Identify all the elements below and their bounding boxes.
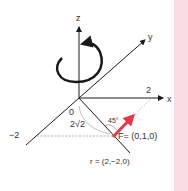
- origin-label: 0: [69, 108, 74, 117]
- x-axis-label: x: [167, 95, 172, 104]
- distance-label: 2√2: [70, 120, 85, 129]
- y-axis: [79, 40, 145, 98]
- y-axis-label: y: [148, 33, 153, 42]
- z-axis-label: z: [76, 14, 81, 23]
- position-label: r = (2,−2,0): [90, 158, 130, 166]
- neg-tick-label: −2: [9, 131, 19, 140]
- torque-diagram: z y x 2 −2 0 2√2 45° F= (0,1,0) r = (2,−…: [0, 0, 188, 191]
- force-extension: [133, 98, 152, 116]
- x-tick-label: 2: [146, 86, 151, 95]
- force-label: F= (0,1,0): [118, 132, 157, 141]
- angle-label: 45°: [108, 117, 119, 124]
